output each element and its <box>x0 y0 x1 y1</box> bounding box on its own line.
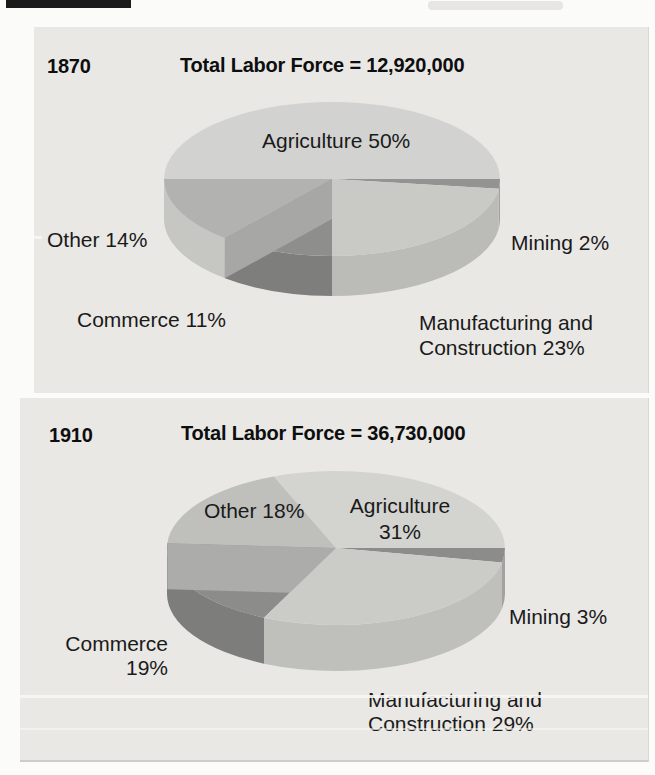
chart-title-1870: Total Labor Force = 12,920,000 <box>180 54 464 77</box>
slice-label-mining-1870: Mining 2% <box>511 232 609 254</box>
scan-artifact-smudge <box>428 1 563 10</box>
chart-title-1910: Total Labor Force = 36,730,000 <box>181 422 465 445</box>
chart-year-1910: 1910 <box>49 424 93 447</box>
chart-year-1870: 1870 <box>47 55 91 78</box>
slice-label-manufacturing-1870: Manufacturing and Construction 23% <box>419 310 593 360</box>
scanned-page: 1870 Total Labor Force = 12,920,000 Agri… <box>0 0 655 775</box>
scan-streak <box>20 728 648 730</box>
slice-label-mining-1910: Mining 3% <box>509 606 607 628</box>
slice-label-agriculture-1870: Agriculture 50% <box>262 130 410 152</box>
slice-label-other-1910: Other 18% <box>204 500 304 522</box>
scan-streak <box>20 695 648 698</box>
slice-label-commerce-1870: Commerce 11% <box>77 309 226 331</box>
chart-panel-1910 <box>20 398 649 762</box>
slice-label-commerce-1910: Commerce 19% <box>46 632 168 680</box>
scan-streak <box>34 236 42 239</box>
scan-artifact-bar <box>6 0 131 8</box>
slice-label-agriculture-1910: Agriculture 31% <box>338 493 462 545</box>
slice-label-other-1870: Other 14% <box>47 229 147 251</box>
